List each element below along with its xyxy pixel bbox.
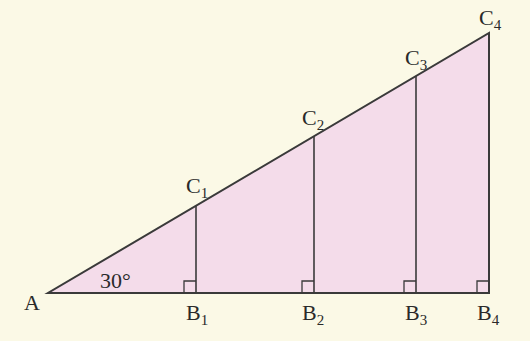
- angle-label: 30°: [100, 270, 131, 292]
- point-b1-label: B1: [186, 302, 208, 328]
- point-b2-label: B2: [302, 302, 324, 328]
- triangle-diagram: [0, 0, 530, 341]
- point-c4-label: C4: [479, 7, 501, 33]
- point-b4-label: B4: [477, 302, 499, 328]
- point-b3-label: B3: [405, 302, 427, 328]
- point-c3-label: C3: [405, 47, 427, 73]
- point-c2-label: C2: [302, 107, 324, 133]
- point-c1-label: C1: [186, 175, 208, 201]
- point-a-label: A: [24, 292, 40, 314]
